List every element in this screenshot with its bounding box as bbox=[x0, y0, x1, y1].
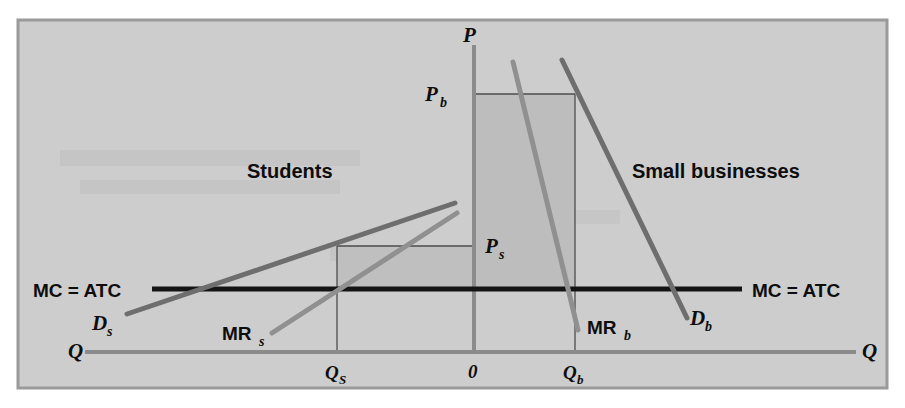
price-axis-label: P bbox=[462, 23, 476, 47]
db-label-main: D bbox=[689, 306, 705, 330]
students-surplus-shading bbox=[337, 246, 474, 289]
ps-label-main: P bbox=[484, 234, 498, 258]
mrb-label-sub: b bbox=[624, 328, 631, 343]
quantity-axis-label-left: Q bbox=[68, 339, 83, 363]
pb-label-main: P bbox=[424, 82, 438, 106]
market-title-students: Students bbox=[247, 160, 333, 182]
origin-label: 0 bbox=[468, 361, 478, 382]
qb-label-sub: b bbox=[577, 372, 584, 387]
market-title-small-businesses: Small businesses bbox=[632, 160, 800, 182]
pb-label-sub: b bbox=[440, 95, 447, 110]
price-discrimination-diagram: P Q Q 0 P b P s Q S Q b Students Small b… bbox=[0, 0, 905, 408]
quantity-axis-label-right: Q bbox=[862, 339, 877, 363]
mrb-label-main: MR bbox=[587, 317, 617, 338]
ds-label-sub: s bbox=[106, 324, 113, 339]
qs-label-sub: S bbox=[339, 372, 346, 387]
figure-page: P Q Q 0 P b P s Q S Q b Students Small b… bbox=[0, 0, 905, 408]
mc-atc-label-left: MC = ATC bbox=[33, 280, 121, 301]
qs-label-main: Q bbox=[325, 362, 339, 383]
qb-label-main: Q bbox=[563, 362, 577, 383]
mc-atc-label-right: MC = ATC bbox=[752, 280, 840, 301]
mrs-label-main: MR bbox=[222, 323, 252, 344]
ds-label-main: D bbox=[91, 311, 107, 335]
mrs-label-sub: s bbox=[258, 334, 265, 349]
db-label-sub: b bbox=[705, 319, 712, 334]
ps-label-sub: s bbox=[498, 247, 505, 262]
